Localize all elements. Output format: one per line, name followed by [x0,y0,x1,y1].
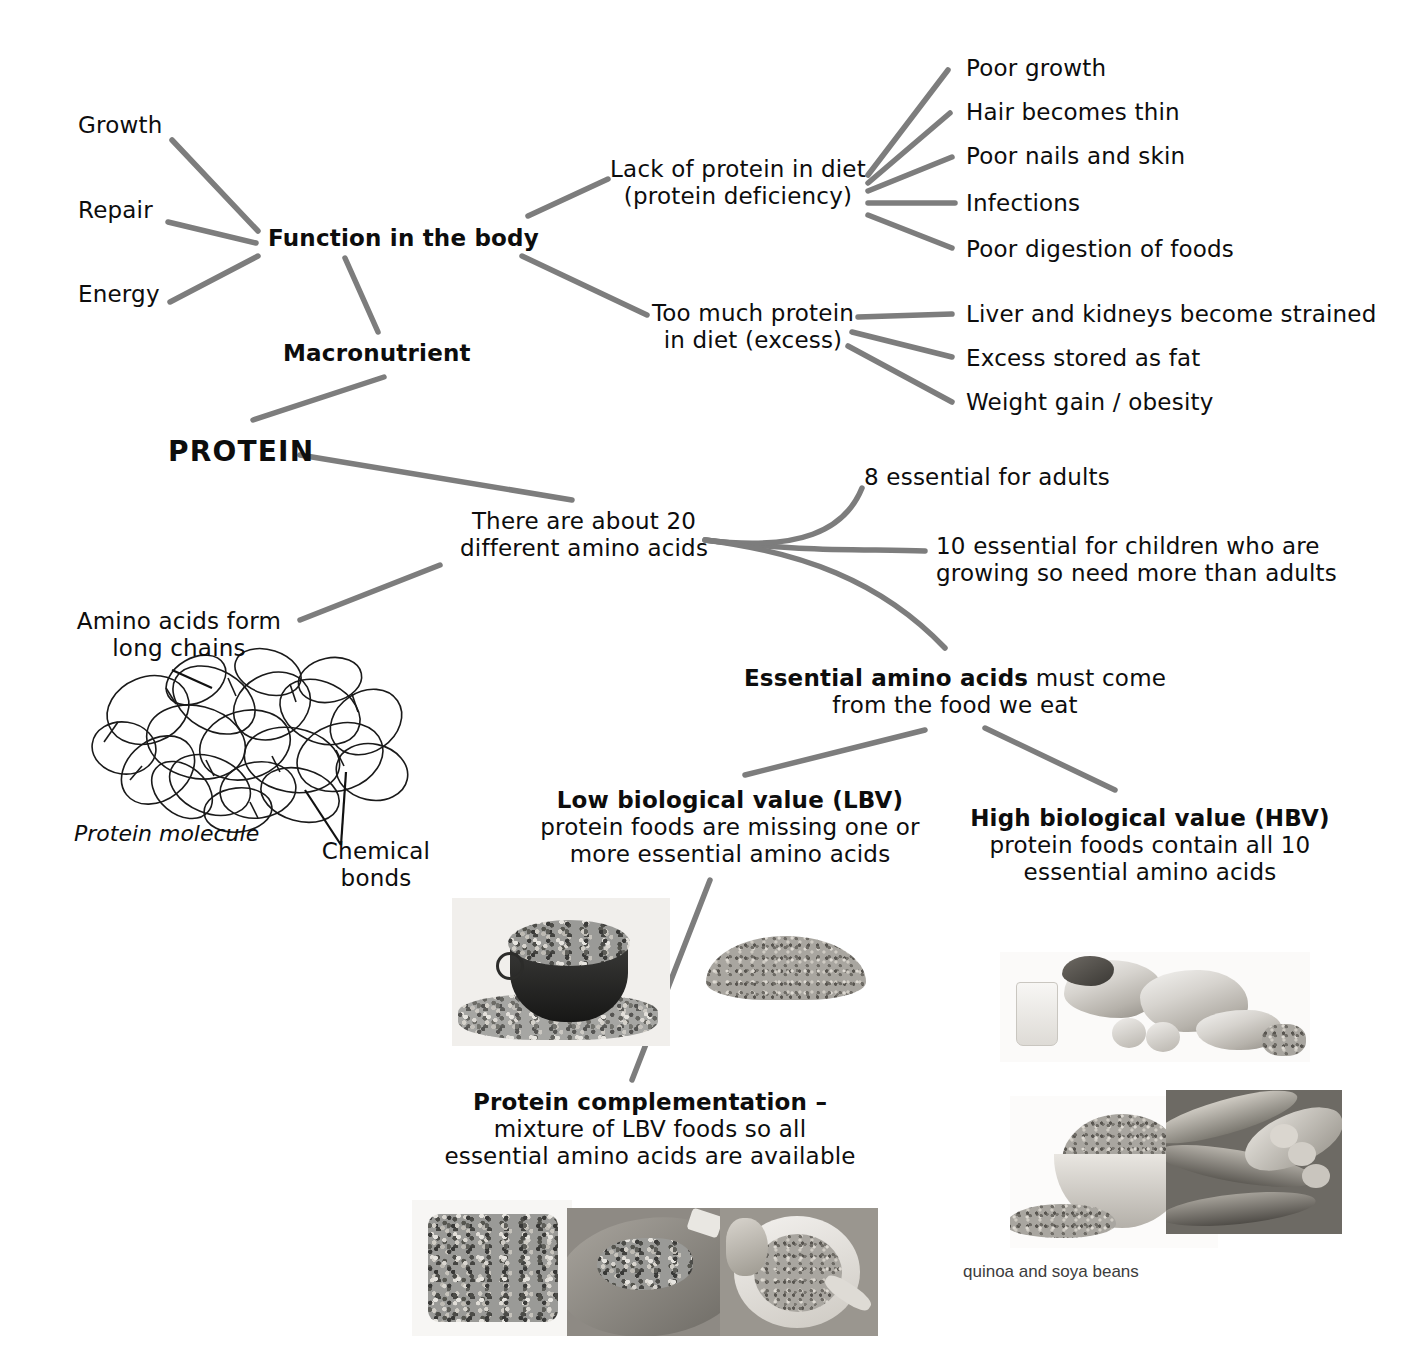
mind-map-canvas: Growth Repair Energy Function in the bod… [0,0,1420,1351]
excess-line-1: Too much protein [648,300,858,327]
node-8-essential-adults: 8 essential for adults [864,464,1110,491]
node-growth: Growth [78,112,162,139]
node-effect-nails-skin: Poor nails and skin [966,143,1185,170]
long-chains-leader [172,670,212,688]
essential-bold: Essential amino acids [744,665,1028,691]
node-energy: Energy [78,281,160,308]
node-high-biological-value: High biological value (HBV) protein food… [960,805,1340,886]
caption-quinoa-and-soya-beans: quinoa and soya beans [963,1262,1139,1282]
link-function-macronutrient [345,258,378,332]
node-protein-excess: Too much protein in diet (excess) [648,300,858,354]
node-protein-complementation: Protein complementation – mixture of LBV… [440,1089,860,1170]
photo-lentil-soup [720,1208,878,1336]
bonds-line-2: bonds [320,865,432,892]
link-growth-function [172,140,258,231]
excess-line-2: in diet (excess) [648,327,858,354]
link-excess-weight-gain [848,346,952,402]
node-macronutrient: Macronutrient [283,340,471,367]
lbv-title: Low biological value (LBV) [540,787,920,814]
link-excess-stored-fat [852,332,952,357]
chains-line-1: Amino acids form [64,608,294,635]
link-macronutrient-protein [253,377,384,420]
photo-soya-pods [1166,1090,1342,1234]
node-10-essential-children: 10 essential for children who are growin… [936,533,1337,587]
node-effect-poor-digestion: Poor digestion of foods [966,236,1234,263]
node-about-20-amino-acids: There are about 20 different amino acids [460,508,708,562]
photo-chilli-with-rice [567,1208,725,1336]
node-effect-liver-kidneys: Liver and kidneys become strained [966,301,1376,328]
link-fork-essential [705,540,945,648]
essential-line-2: from the food we eat [720,692,1190,719]
node-function-in-the-body: Function in the body [268,225,539,252]
link-essential-hbv [985,728,1115,790]
hbv-title: High biological value (HBV) [960,805,1340,832]
link-function-deficiency [528,179,608,216]
link-amino-count-chains [300,565,440,620]
deficiency-line-2: (protein deficiency) [608,183,868,210]
essential-line-1: Essential amino acids must come [720,665,1190,692]
node-protein-deficiency: Lack of protein in diet (protein deficie… [608,156,868,210]
node-effect-stored-as-fat: Excess stored as fat [966,345,1201,372]
photo-lbv-bowl [452,898,670,1046]
node-effect-hair-thin: Hair becomes thin [966,99,1180,126]
node-effect-weight-gain: Weight gain / obesity [966,389,1214,416]
node-effect-poor-growth: Poor growth [966,55,1106,82]
protein-molecule-drawing [89,641,415,836]
link-energy-function [170,256,258,302]
complementation-title: Protein complementation – [440,1089,860,1116]
link-repair-function [168,222,256,243]
link-fork-adults [705,488,862,543]
node-essential-amino-acids: Essential amino acids must come from the… [720,665,1190,719]
complementation-line-3: essential amino acids are available [440,1143,860,1170]
children-line-1: 10 essential for children who are [936,533,1337,560]
link-deficiency-hair-thin [868,113,950,183]
lbv-line-2: protein foods are missing one or [540,814,920,841]
link-deficiency-poor-growth [868,70,948,175]
photo-lbv-pile [700,916,872,1012]
node-protein-center: PROTEIN [168,435,314,468]
chains-line-2: long chains [64,635,294,662]
photo-beans-on-toast [412,1200,572,1336]
link-deficiency-digestion [868,215,952,248]
node-effect-infections: Infections [966,190,1080,217]
link-deficiency-nails-skin [868,157,952,191]
node-protein-molecule-label: Protein molecule [74,821,259,847]
essential-rest: must come [1028,665,1166,691]
lbv-line-3: more essential amino acids [540,841,920,868]
node-amino-acids-long-chains: Amino acids form long chains [64,608,294,662]
hbv-line-3: essential amino acids [960,859,1340,886]
link-essential-lbv [745,730,925,775]
chemical-bond-leaders [305,772,346,845]
deficiency-line-1: Lack of protein in diet [608,156,868,183]
bonds-line-1: Chemical [320,838,432,865]
node-repair: Repair [78,197,153,224]
node-low-biological-value: Low biological value (LBV) protein foods… [540,787,920,868]
node-chemical-bonds: Chemical bonds [320,838,432,892]
link-function-excess [522,256,647,315]
link-protein-amino-count [300,455,572,500]
hbv-line-2: protein foods contain all 10 [960,832,1340,859]
amino-count-line-1: There are about 20 [460,508,708,535]
link-fork-children [705,540,925,551]
photo-hbv-spread [1000,952,1310,1062]
link-excess-liver-kidneys [858,314,952,317]
children-line-2: growing so need more than adults [936,560,1337,587]
amino-count-line-2: different amino acids [460,535,708,562]
complementation-line-2: mixture of LBV foods so all [440,1116,860,1143]
